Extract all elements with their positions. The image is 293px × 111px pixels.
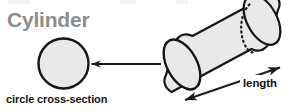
cross-section-circle bbox=[39, 39, 89, 89]
page-title: Cylinder bbox=[7, 9, 89, 30]
cylinder-diagram: Cylinder circle cross-section length bbox=[0, 0, 293, 111]
cross-section-caption: circle cross-section bbox=[6, 94, 107, 105]
length-label: length bbox=[243, 78, 277, 90]
